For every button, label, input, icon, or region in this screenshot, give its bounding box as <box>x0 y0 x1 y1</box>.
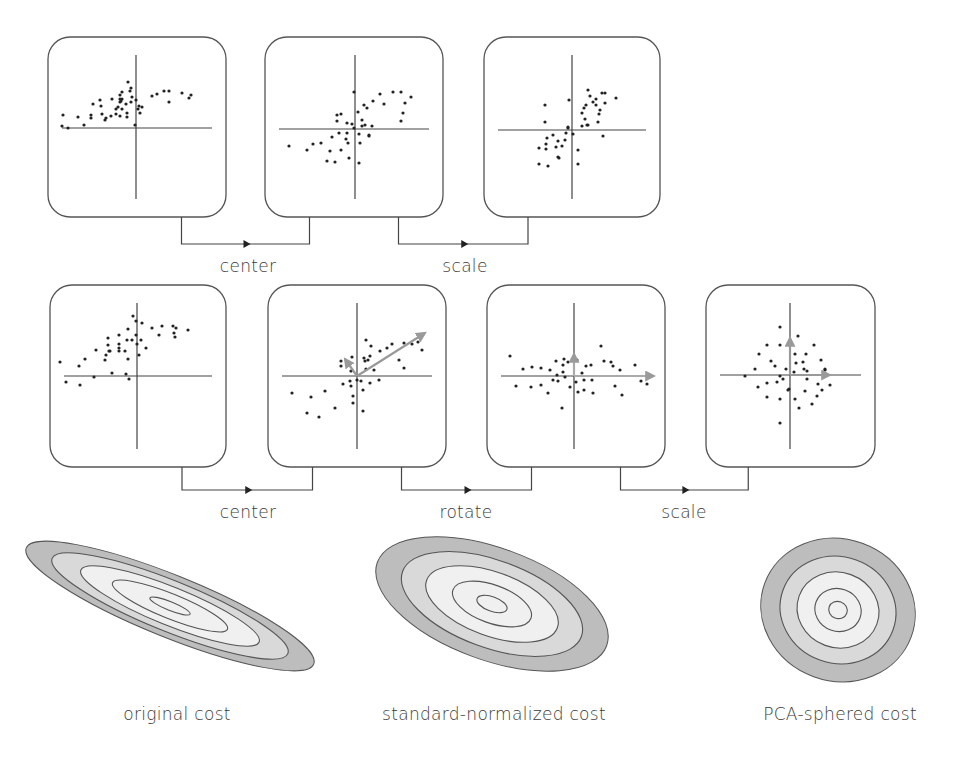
data-point <box>753 367 756 370</box>
data-point <box>129 100 132 103</box>
data-point <box>805 377 808 380</box>
transform-connector <box>621 467 749 494</box>
data-point <box>812 343 815 346</box>
data-point <box>391 90 394 93</box>
data-point <box>378 92 381 95</box>
data-point <box>773 364 776 367</box>
data-point <box>131 314 134 317</box>
data-point <box>134 98 137 101</box>
data-point <box>537 146 540 149</box>
data-point <box>330 135 333 138</box>
scatter-panel-pca-sphered-data <box>706 285 875 467</box>
data-point <box>576 148 579 151</box>
data-point <box>563 138 566 141</box>
data-point <box>403 101 406 104</box>
data-point <box>594 103 597 106</box>
cost-contour-0 <box>15 519 326 693</box>
scatter-panel-rotated-data <box>487 285 665 467</box>
data-point <box>804 352 807 355</box>
data-point <box>555 373 558 376</box>
data-point <box>557 156 560 159</box>
data-point <box>399 119 402 122</box>
data-point <box>588 94 591 97</box>
arrow-icon <box>682 486 689 494</box>
data-point <box>187 96 190 99</box>
data-point <box>778 343 781 346</box>
data-point <box>802 367 805 370</box>
data-point <box>61 113 64 116</box>
data-point <box>346 141 349 144</box>
data-point <box>539 366 542 369</box>
data-point <box>560 406 563 409</box>
data-point <box>368 381 371 384</box>
data-point <box>138 111 141 114</box>
data-point <box>119 99 122 102</box>
scatter-panel-scaled-data <box>484 37 660 217</box>
data-point <box>597 112 600 115</box>
data-point <box>596 120 599 123</box>
data-point <box>317 415 320 418</box>
data-point <box>174 326 177 329</box>
data-point <box>133 123 136 126</box>
data-point <box>564 131 567 134</box>
data-point <box>765 381 768 384</box>
data-point <box>167 100 170 103</box>
data-point <box>328 149 331 152</box>
data-point <box>124 102 127 105</box>
data-point <box>584 364 587 367</box>
row-pca-sphering <box>50 285 875 494</box>
data-point <box>589 363 592 366</box>
data-point <box>167 89 170 92</box>
data-point <box>129 86 132 89</box>
data-point <box>117 333 120 336</box>
data-point <box>371 99 374 102</box>
data-point <box>368 354 371 357</box>
data-point <box>378 349 381 352</box>
data-point <box>136 107 139 110</box>
data-point <box>801 360 804 363</box>
data-point <box>787 387 790 390</box>
transform-connector <box>182 467 313 494</box>
data-point <box>337 131 340 134</box>
data-point <box>120 107 123 110</box>
data-point <box>778 374 781 377</box>
data-point <box>98 98 101 101</box>
data-point <box>106 336 109 339</box>
data-point <box>339 112 342 115</box>
data-point <box>117 349 120 352</box>
data-point <box>118 114 121 117</box>
data-point <box>584 103 587 106</box>
data-point <box>399 90 402 93</box>
data-point <box>377 378 380 381</box>
data-point <box>160 324 163 327</box>
data-point <box>583 117 586 120</box>
data-point <box>363 359 366 362</box>
data-point <box>385 346 388 349</box>
data-point <box>363 123 366 126</box>
data-point <box>58 360 61 363</box>
step-label-row1-scale: scale <box>442 256 487 276</box>
data-point <box>805 369 808 372</box>
data-point <box>620 393 623 396</box>
data-point <box>358 141 361 144</box>
data-point <box>797 406 800 409</box>
data-point <box>571 132 574 135</box>
data-point <box>639 379 642 382</box>
data-point <box>345 131 348 134</box>
data-point <box>77 364 80 367</box>
data-point <box>614 96 617 99</box>
data-point <box>591 100 594 103</box>
data-point <box>521 367 524 370</box>
data-point <box>76 115 79 118</box>
data-point <box>551 133 554 136</box>
data-point <box>537 162 540 165</box>
data-point <box>290 391 293 394</box>
data-point <box>598 108 601 111</box>
scatter-panel-original-data <box>48 37 226 217</box>
data-point <box>351 401 354 404</box>
data-point <box>568 385 571 388</box>
data-point <box>103 358 106 361</box>
data-point <box>118 93 121 96</box>
data-point <box>89 116 92 119</box>
data-point <box>590 378 593 381</box>
